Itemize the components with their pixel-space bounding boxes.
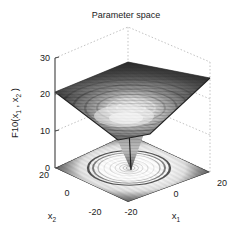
x2-label-sub: 2 [53,216,57,223]
x1-tick-20: 20 [217,178,227,188]
svg-text:F10(x1 , x2 ): F10(x1 , x2 ) [9,88,22,138]
z-axis-label: F10(x1 , x2 ) [9,88,22,138]
x2-tick-0: 0 [64,188,69,198]
surface-mesh [55,62,210,140]
surface-plot-svg: Parameter space [0,0,245,249]
x2-axis-label: x2 [48,210,57,223]
z-label-comma: , [9,102,20,110]
x1-axis-label: x1 [172,210,181,223]
figure-canvas: Parameter space [0,0,245,249]
z-tick-30: 30 [40,53,50,63]
page-title: Parameter space [92,10,161,20]
x1-label-sub: 1 [177,216,181,223]
z-tick-20: 20 [40,89,50,99]
x1-tick--20: -20 [124,207,137,217]
z-label-close: ) [9,88,20,94]
z-tick-10: 10 [40,126,50,136]
z-axis [55,57,59,168]
x2-tick-20: 20 [39,170,49,180]
x2-tick--20: -20 [88,207,101,217]
z-label-fn: F10( [9,118,20,138]
x1-tick-0: 0 [173,189,178,199]
